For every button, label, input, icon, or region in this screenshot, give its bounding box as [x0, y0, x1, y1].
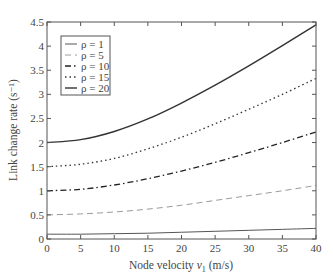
legend-label: ρ = 20 — [81, 82, 110, 94]
y-tick-label: 3.5 — [30, 64, 44, 76]
x-tick-label: 5 — [78, 242, 84, 254]
legend: ρ = 1ρ = 5ρ = 10ρ = 15ρ = 20 — [61, 36, 110, 95]
y-tick-label: 0.5 — [30, 209, 44, 221]
y-tick-label: 3 — [39, 88, 45, 100]
line-chart: 051015202530354000.511.522.533.544.5 ρ =… — [0, 0, 333, 279]
y-tick-label: 2 — [39, 137, 45, 149]
x-axis-label: Node velocity v1 (m/s) — [129, 259, 233, 274]
x-tick-label: 10 — [109, 242, 121, 254]
y-tick-label: 1.5 — [30, 161, 44, 173]
y-tick-label: 4 — [39, 40, 45, 52]
x-tick-label: 15 — [142, 242, 154, 254]
y-axis-label: Link change rate (s⁻¹) — [7, 79, 20, 181]
y-tick-label: 2.5 — [30, 112, 44, 124]
series-line-1 — [47, 185, 316, 214]
x-tick-label: 35 — [277, 242, 289, 254]
x-tick-label: 40 — [311, 242, 323, 254]
x-tick-label: 0 — [44, 242, 50, 254]
y-tick-label: 0 — [39, 233, 45, 245]
x-tick-label: 25 — [210, 242, 222, 254]
x-tick-label: 30 — [243, 242, 255, 254]
y-tick-label: 1 — [39, 185, 45, 197]
y-tick-label: 4.5 — [30, 16, 44, 28]
series-line-2 — [47, 132, 316, 191]
series-line-0 — [47, 228, 316, 234]
x-tick-label: 20 — [176, 242, 188, 254]
